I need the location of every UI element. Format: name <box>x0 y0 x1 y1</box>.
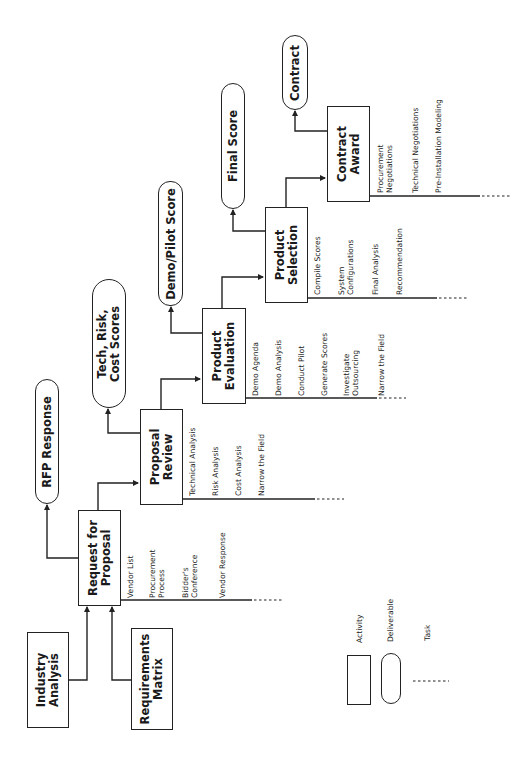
activity-label: Review <box>162 429 175 486</box>
task-narrow-the-field: Narrow the Field <box>378 334 387 396</box>
task-risk-analysis: Risk Analysis <box>212 447 221 496</box>
task-demo-analysis: Demo Analysis <box>275 340 284 396</box>
legend-task-label: Task <box>423 625 432 641</box>
task-compile-scores: Compile Scores <box>314 236 323 295</box>
activity-label: Proposal <box>149 429 162 486</box>
legend-deliverable-label: Deliverable <box>386 599 395 642</box>
activity-product-selection: Product Selection <box>265 207 308 303</box>
activity-label: Matrix <box>152 634 165 725</box>
task-procurement-process: Procurement Process <box>149 549 166 598</box>
task-bidders-conference: Bidder's Conference <box>182 555 199 598</box>
task-pre-installation-modeling: Pre-Installation Modeling <box>435 99 444 193</box>
task-final-analysis: Final Analysis <box>372 244 381 295</box>
legend-deliverable-swatch <box>381 653 401 704</box>
task-demo-agenda: Demo Agenda <box>252 342 261 396</box>
deliverable-label: Cost Scores <box>109 305 122 381</box>
deliverable-label: RFP Response <box>41 396 54 488</box>
task-investigate-outsourcing: Investigate Outsourcing <box>343 350 360 396</box>
activity-label: Contract <box>336 126 349 182</box>
activity-product-evaluation: Product Evaluation <box>202 308 246 404</box>
activity-label: Proposal <box>100 520 113 596</box>
activity-industry-analysis: Industry Analysis <box>27 632 69 728</box>
rfp-process-diagram: Industry Analysis Requirements Matrix Re… <box>0 0 520 764</box>
activity-label: Analysis <box>48 653 61 707</box>
activity-label: Selection <box>287 225 300 285</box>
task-vendor-list: Vendor List <box>127 556 136 598</box>
activity-requirements-matrix: Requirements Matrix <box>131 628 173 730</box>
deliverable-contract: Contract <box>282 35 308 110</box>
activity-request-for-proposal: Request for Proposal <box>78 510 121 606</box>
activity-label: Evaluation <box>224 322 237 391</box>
deliverable-label: Demo/Pilot Score <box>164 188 177 300</box>
task-vendor-response: Vendor Response <box>219 532 228 598</box>
task-conduct-pilot: Conduct Pilot <box>298 346 307 396</box>
task-cost-analysis: Cost Analysis <box>235 445 244 496</box>
legend-activity-label: Activity <box>355 615 364 643</box>
deliverable-rfp-response: RFP Response <box>35 379 59 504</box>
deliverable-demo-pilot-score: Demo/Pilot Score <box>158 181 183 306</box>
task-system-configurations: System Configurations <box>338 240 355 295</box>
deliverable-label: Contract <box>289 45 302 101</box>
task-narrow-the-field: Narrow the Field <box>258 434 267 496</box>
task-technical-analysis: Technical Analysis <box>189 427 198 496</box>
activity-label: Award <box>349 126 362 182</box>
task-procurement-negotiations: Procurement Negotiations <box>377 144 394 193</box>
activity-label: Request for <box>87 520 100 596</box>
deliverable-final-score: Final Score <box>221 83 245 209</box>
deliverable-tech-risk-cost-scores: Tech, Risk, Cost Scores <box>92 279 126 408</box>
legend-activity-swatch <box>347 655 371 705</box>
activity-proposal-review: Proposal Review <box>140 409 183 505</box>
deliverable-label: Final Score <box>227 110 240 182</box>
task-generate-scores: Generate Scores <box>321 333 330 396</box>
task-technical-negotiations: Technical Negotiations <box>412 108 421 193</box>
activity-label: Product <box>274 225 287 285</box>
task-recommendation: Recommendation <box>396 228 405 295</box>
activity-contract-award: Contract Award <box>327 106 370 202</box>
